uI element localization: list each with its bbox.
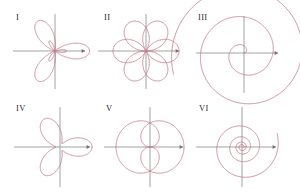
panel-6: VI [0,0,300,196]
polar-curves-figure: IIIIIIIVVVI [0,0,300,196]
panel-6-x-axis-arrow [273,145,276,149]
panel-6-curve [217,126,278,177]
panel-6-plot [0,0,300,196]
